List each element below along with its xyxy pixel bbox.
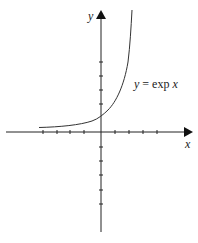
exp-chart: y x y = exp x [0, 0, 198, 243]
y-axis-arrow-icon [96, 10, 106, 19]
y-axis-label: y [87, 9, 94, 23]
exp-curve [39, 10, 132, 128]
x-axis-arrow-icon [184, 127, 193, 137]
x-axis-label: x [184, 137, 191, 151]
equation-label: y = exp x [133, 77, 178, 91]
